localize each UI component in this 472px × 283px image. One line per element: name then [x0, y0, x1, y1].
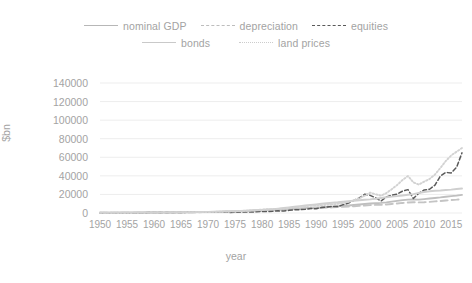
plot-area: $bn 020000400006000080000100000120000140… [0, 0, 472, 283]
chart-container: nominal GDP depreciation equities bonds … [0, 0, 472, 283]
series-line-depreciation [100, 199, 462, 213]
series-line-equities [100, 153, 462, 213]
plot-svg [0, 0, 472, 283]
